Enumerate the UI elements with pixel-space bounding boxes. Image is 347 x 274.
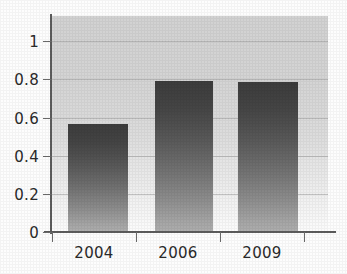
x-tick-1 [136,232,137,242]
y-tick-1 [43,41,52,42]
y-tick-0.6 [43,118,52,119]
y-tick-0 [43,232,52,233]
y-axis-label-0.4: 0.4 [14,148,39,166]
y-tick-0.2 [43,194,52,195]
x-tick-2 [220,232,221,242]
y-axis-label-1: 1 [29,33,39,51]
y-tick-0.4 [43,156,52,157]
y-axis-label-0.8: 0.8 [14,71,39,89]
gridline-0.8 [52,79,328,80]
y-axis-label-0.2: 0.2 [14,186,39,204]
bar-2004[interactable] [68,124,128,232]
x-axis-label-2006: 2006 [136,244,220,262]
bar-2006[interactable] [155,81,213,232]
x-tick-right [304,232,305,242]
y-tick-0.8 [43,79,52,80]
y-axis-label-0: 0 [29,224,39,242]
x-axis-label-2004: 2004 [52,244,136,262]
bar-chart: 0 0.2 0.4 0.6 0.8 1 2004 2006 2009 [0,0,347,274]
y-axis-label-0.6: 0.6 [14,110,39,128]
gridline-1.0 [52,41,328,42]
plot-area [52,16,328,232]
x-tick-left [52,232,53,242]
x-axis-line [44,231,336,233]
x-axis-label-2009: 2009 [220,244,304,262]
y-axis-line [50,14,52,234]
bar-2009[interactable] [238,82,298,232]
